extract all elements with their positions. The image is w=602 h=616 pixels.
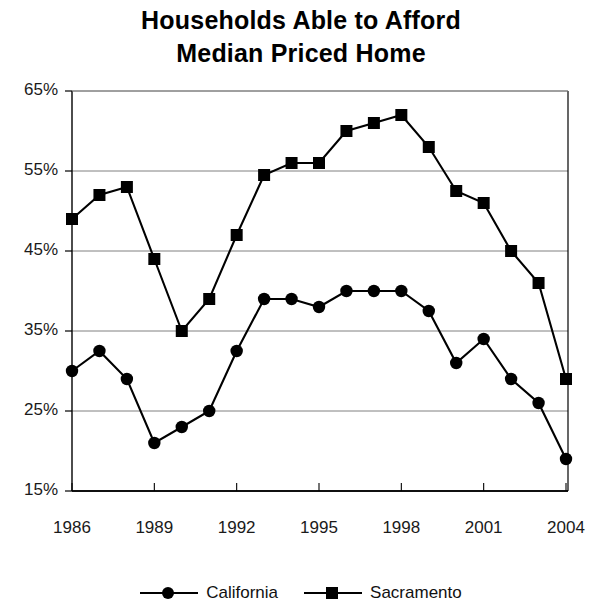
series-california (66, 285, 572, 465)
data-point-circle (395, 285, 407, 297)
data-point-square (203, 293, 215, 305)
data-point-square (148, 253, 160, 265)
data-point-square (533, 277, 545, 289)
chart-legend: CaliforniaSacramento (0, 576, 602, 610)
data-point-circle (477, 333, 489, 345)
y-axis-tick-label: 25% (0, 400, 58, 420)
data-point-square (258, 169, 270, 181)
x-axis-tick-label: 2004 (536, 518, 596, 538)
y-axis-tick-label: 55% (0, 160, 58, 180)
data-point-square (423, 141, 435, 153)
circle-marker-icon (140, 585, 198, 601)
data-point-circle (148, 437, 160, 449)
square-marker-icon (304, 585, 362, 601)
data-point-square (93, 189, 105, 201)
data-point-square (66, 213, 78, 225)
data-point-circle (313, 301, 325, 313)
data-point-circle (450, 357, 462, 369)
data-point-square (368, 117, 380, 129)
series-sacramento (66, 109, 572, 385)
data-point-circle (368, 285, 380, 297)
data-point-square (313, 157, 325, 169)
data-point-circle (560, 453, 572, 465)
x-axis-tick-label: 1986 (42, 518, 102, 538)
data-point-square (340, 125, 352, 137)
data-point-circle (532, 397, 544, 409)
data-point-circle (203, 405, 215, 417)
legend-entry-sacramento[interactable]: Sacramento (304, 583, 462, 603)
x-axis-tick-label: 1992 (207, 518, 267, 538)
y-axis-tick-label: 65% (0, 80, 58, 100)
data-point-square (231, 229, 243, 241)
data-point-circle (176, 421, 188, 433)
x-axis-tick-label: 1998 (371, 518, 431, 538)
data-point-square (505, 245, 517, 257)
y-axis-tick-label: 45% (0, 240, 58, 260)
data-point-circle (285, 293, 297, 305)
data-point-square (560, 373, 572, 385)
data-point-square (176, 325, 188, 337)
axis-ticks (65, 91, 566, 491)
x-axis-tick-label: 1995 (289, 518, 349, 538)
x-axis-tick-label: 2001 (454, 518, 514, 538)
data-point-square (478, 197, 490, 209)
x-axis-tick-label: 1989 (124, 518, 184, 538)
data-point-square (450, 185, 462, 197)
data-point-circle (340, 285, 352, 297)
data-point-circle (258, 293, 270, 305)
y-axis-tick-label: 15% (0, 480, 58, 500)
y-axis-tick-label: 35% (0, 320, 58, 340)
data-point-circle (505, 373, 517, 385)
data-point-square (395, 109, 407, 121)
chart-container: Households Able to Afford Median Priced … (0, 0, 602, 616)
square-marker-icon (326, 587, 338, 599)
legend-entry-california[interactable]: California (140, 583, 278, 603)
gridlines (72, 91, 568, 491)
data-point-circle (121, 373, 133, 385)
data-point-circle (423, 305, 435, 317)
data-point-circle (93, 345, 105, 357)
data-series (66, 109, 572, 465)
data-point-square (121, 181, 133, 193)
circle-marker-icon (162, 587, 174, 599)
legend-label: Sacramento (362, 583, 462, 603)
axis-lines (72, 91, 568, 491)
data-point-circle (230, 345, 242, 357)
data-point-circle (66, 365, 78, 377)
legend-label: California (198, 583, 278, 603)
data-point-square (286, 157, 298, 169)
